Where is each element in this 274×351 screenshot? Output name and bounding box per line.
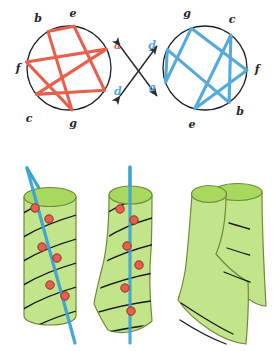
cylinder-folded-top xyxy=(192,186,227,203)
intersection-dot xyxy=(45,215,53,223)
figure-canvas: e a d g c f b g c f xyxy=(0,0,274,351)
intersection-dot xyxy=(116,205,124,213)
cylinder-straight-group xyxy=(20,168,80,343)
right-label-a: a xyxy=(149,81,156,94)
intersection-dot xyxy=(53,254,61,262)
right-label-b: b xyxy=(236,105,244,118)
left-label-g: g xyxy=(69,117,77,130)
left-label-b: b xyxy=(34,12,42,25)
intersection-dot xyxy=(31,204,39,212)
figure-root: e a d g c f b g c f xyxy=(0,0,274,351)
cylinder-folded-group xyxy=(178,184,266,345)
right-label-d: d xyxy=(148,39,156,52)
left-label-c: c xyxy=(26,112,33,125)
left-heptagram-group: e a d g c f b xyxy=(15,7,122,130)
intersection-dot xyxy=(46,281,54,289)
left-label-a: a xyxy=(114,39,121,52)
right-label-c: c xyxy=(229,13,236,26)
intersection-dot xyxy=(123,242,131,250)
right-label-g: g xyxy=(183,7,191,20)
right-label-f: f xyxy=(254,63,262,76)
left-label-e: e xyxy=(70,7,77,20)
intersection-dot xyxy=(127,307,135,315)
right-heptagram-group: g c f b e a d xyxy=(148,7,261,131)
intersection-dot xyxy=(121,284,129,292)
intersection-dot xyxy=(61,292,69,300)
right-label-e: e xyxy=(189,118,196,131)
left-label-f: f xyxy=(15,62,23,75)
intersection-dot xyxy=(38,243,46,251)
cylinder-bent-group xyxy=(92,167,156,343)
intersection-dot xyxy=(130,216,138,224)
intersection-dot xyxy=(135,261,143,269)
